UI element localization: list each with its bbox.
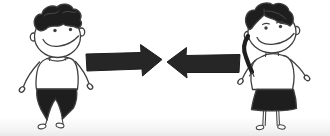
boy-figure [18, 4, 93, 129]
girl-eye-left [264, 26, 267, 29]
girl-leg-left [263, 111, 266, 126]
boy-foot-left [38, 124, 47, 130]
girl-foot-right [277, 124, 285, 129]
boy-eye-left [53, 29, 56, 32]
boy-hand-right [86, 83, 93, 91]
girl-skirt [252, 90, 297, 111]
girl-eye-right [279, 25, 282, 28]
boy-hand-left [18, 86, 25, 94]
arrow-pointing-right [86, 45, 162, 77]
girl-leg-right [277, 111, 280, 126]
boy-pants [37, 89, 77, 120]
girl-foot-left [256, 125, 264, 130]
arrow-pointing-left [167, 48, 240, 79]
illustration-svg [0, 0, 330, 136]
girl-hand-right [303, 74, 311, 81]
girl-figure [237, 3, 311, 130]
girl-blouse [251, 54, 294, 90]
girl-hand-left [237, 78, 244, 86]
arrows [86, 45, 240, 79]
illustration-canvas [0, 0, 330, 136]
boy-eye-right [69, 28, 72, 31]
